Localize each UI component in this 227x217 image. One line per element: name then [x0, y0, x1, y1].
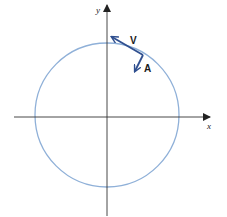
acceleration-label: A — [144, 63, 151, 74]
x-axis-label: x — [206, 121, 211, 131]
velocity-label: V — [130, 35, 137, 46]
circular-motion-diagram: y x V A — [0, 0, 227, 217]
velocity-vector — [112, 37, 143, 55]
acceleration-vector — [135, 55, 143, 71]
y-axis-label: y — [95, 5, 100, 15]
